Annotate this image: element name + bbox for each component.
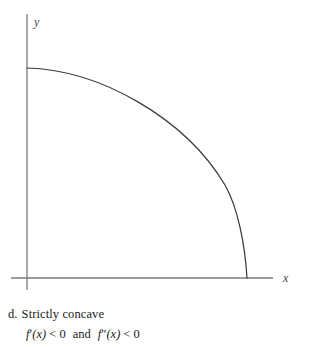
plot-area [0,0,313,300]
caption-marker: d. [8,307,18,322]
figure-panel: y x [0,0,313,300]
derivative-conditions: f′(x) < 0andf″(x) < 0 [26,327,140,342]
first-derivative-relation: < 0 [49,327,65,341]
conjunction: and [73,327,91,341]
second-derivative-expression: f″(x) < 0 [98,327,140,341]
caption: d.Strictly concave [8,307,104,322]
concave-curve [27,68,247,278]
y-axis-label: y [34,16,39,28]
second-derivative-argument: (x) [106,327,120,341]
x-axis-label: x [283,272,288,284]
first-derivative-expression: f′(x) < 0 [26,327,66,341]
caption-text: Strictly concave [22,307,104,321]
first-derivative-argument: (x) [32,327,46,341]
second-derivative-relation: < 0 [123,327,139,341]
